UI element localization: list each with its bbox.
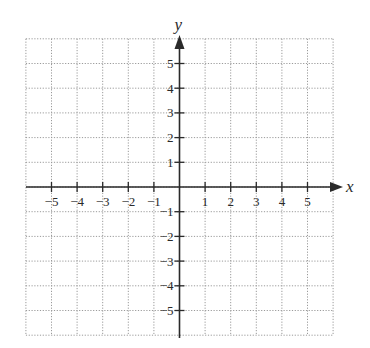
y-tick-label: 4 [167,81,174,96]
y-tick-label: 2 [167,130,174,145]
x-tick-label: 1 [202,194,209,209]
x-tick-label: −2 [121,194,135,209]
axes [26,35,343,338]
y-tick-label: −2 [160,229,174,244]
x-tick-label: −5 [45,194,59,209]
y-axis-label: y [173,15,183,34]
y-tick-label: 5 [167,56,174,71]
y-axis-arrow-icon [175,35,185,49]
y-tick-label: 1 [167,155,174,170]
y-tick-label: 3 [167,105,174,120]
y-tick-label: −1 [160,204,174,219]
y-tick-label: −5 [160,303,174,318]
x-tick-label: −3 [96,194,110,209]
x-axis-arrow-icon [330,182,343,192]
x-tick-label: 3 [253,194,260,209]
x-axis-label: x [345,177,354,196]
y-tick-label: −4 [160,278,174,293]
x-tick-label: −4 [70,194,84,209]
x-tick-label: 2 [227,194,234,209]
x-tick-label: 4 [279,194,286,209]
coordinate-plane: −5−4−3−2−112345−5−4−3−2−112345 x y [0,0,370,348]
y-tick-label: −3 [160,254,174,269]
x-tick-label: 5 [304,194,311,209]
